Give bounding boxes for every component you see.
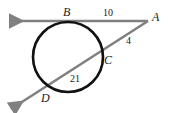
geometry-canvas xyxy=(0,0,170,113)
geometry-figure: A B C D 10 4 21 xyxy=(0,0,170,113)
point-label-C: C xyxy=(104,54,112,66)
measure-label-AC: 4 xyxy=(126,36,131,46)
point-label-A: A xyxy=(152,11,159,23)
measure-label-DC: 21 xyxy=(70,74,80,84)
point-label-D: D xyxy=(41,92,50,104)
point-label-B: B xyxy=(63,6,70,18)
measure-label-AB: 10 xyxy=(103,8,113,18)
